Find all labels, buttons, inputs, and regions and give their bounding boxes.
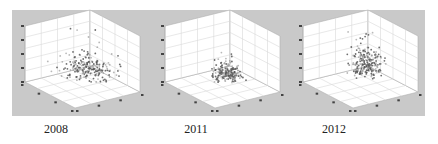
- data-point: [66, 77, 68, 79]
- data-point: [215, 64, 217, 66]
- plot-2008: [21, 10, 144, 112]
- data-point: [219, 68, 221, 70]
- x-tick-label: [397, 99, 400, 101]
- data-point: [117, 70, 119, 72]
- data-point: [68, 54, 70, 56]
- data-point: [88, 57, 90, 59]
- data-point: [384, 60, 386, 62]
- data-point: [76, 79, 78, 81]
- data-point: [384, 57, 386, 59]
- data-point: [236, 73, 238, 75]
- data-point: [366, 65, 368, 67]
- data-point: [106, 68, 108, 70]
- data-point: [75, 60, 77, 62]
- data-point: [231, 61, 233, 63]
- data-point: [83, 61, 85, 63]
- data-point: [85, 71, 87, 73]
- y-tick-label: [349, 110, 352, 112]
- y-tick-label: [332, 101, 335, 103]
- data-point: [355, 64, 357, 66]
- x-tick-label: [259, 99, 262, 101]
- plot-2011: [161, 10, 284, 112]
- data-point: [111, 53, 113, 55]
- x-tick-label: [141, 94, 144, 96]
- data-point: [359, 73, 361, 75]
- data-point: [375, 68, 377, 70]
- data-point: [90, 57, 92, 59]
- data-point: [347, 63, 349, 65]
- data-point: [369, 67, 371, 69]
- data-point: [98, 66, 100, 68]
- z-tick-label: [299, 81, 302, 83]
- data-point: [358, 56, 360, 58]
- data-point: [70, 28, 72, 30]
- data-point: [360, 42, 362, 44]
- data-point: [367, 57, 369, 59]
- data-point: [105, 70, 107, 72]
- data-point: [225, 68, 227, 70]
- x-tick-label: [119, 99, 122, 101]
- x-tick-label: [376, 105, 379, 107]
- data-point: [90, 81, 92, 83]
- data-point: [212, 73, 214, 75]
- data-point: [212, 76, 214, 78]
- data-point: [371, 69, 373, 71]
- data-point: [76, 70, 78, 72]
- data-point: [355, 69, 357, 71]
- data-point: [223, 77, 225, 79]
- y-tick-label: [161, 84, 164, 86]
- data-point: [359, 50, 361, 52]
- data-point: [360, 52, 362, 54]
- data-point: [81, 49, 83, 51]
- data-point: [356, 71, 358, 73]
- data-point: [356, 67, 358, 69]
- caption-2008: 2008: [26, 122, 86, 137]
- data-point: [226, 78, 228, 80]
- z-tick-label: [161, 39, 164, 41]
- data-point: [217, 71, 219, 73]
- data-point: [368, 52, 370, 54]
- data-point: [217, 58, 219, 60]
- data-point: [103, 63, 105, 65]
- data-point: [372, 62, 374, 64]
- z-tick-label: [161, 67, 164, 69]
- data-point: [221, 73, 223, 75]
- data-point: [89, 80, 91, 82]
- data-point: [369, 60, 371, 62]
- data-point: [87, 66, 89, 68]
- data-point: [100, 81, 102, 83]
- caption-2012: 2012: [304, 122, 364, 137]
- data-point: [367, 63, 369, 65]
- data-point: [366, 62, 368, 64]
- data-point: [59, 55, 61, 57]
- data-point: [93, 63, 95, 65]
- data-point: [215, 72, 217, 74]
- y-tick-label: [178, 93, 181, 95]
- data-point: [238, 75, 240, 77]
- data-point: [225, 75, 227, 77]
- data-point: [86, 64, 88, 66]
- y-tick-label: [316, 93, 319, 95]
- data-point: [213, 67, 215, 69]
- data-point: [346, 72, 348, 74]
- data-point: [80, 75, 82, 77]
- data-point: [229, 70, 231, 72]
- data-point: [86, 54, 88, 56]
- data-point: [241, 76, 243, 78]
- data-point: [89, 54, 91, 56]
- data-point: [76, 29, 78, 31]
- data-point: [220, 66, 222, 68]
- data-point: [367, 47, 369, 49]
- data-point: [67, 68, 69, 70]
- data-point: [370, 64, 372, 66]
- data-point: [347, 31, 349, 33]
- data-point: [91, 69, 93, 71]
- data-point: [369, 53, 371, 55]
- data-point: [364, 36, 366, 38]
- data-point: [229, 60, 231, 62]
- data-point: [221, 64, 223, 66]
- data-point: [73, 62, 75, 64]
- data-point: [231, 56, 233, 58]
- data-point: [365, 59, 367, 61]
- data-point: [51, 70, 53, 72]
